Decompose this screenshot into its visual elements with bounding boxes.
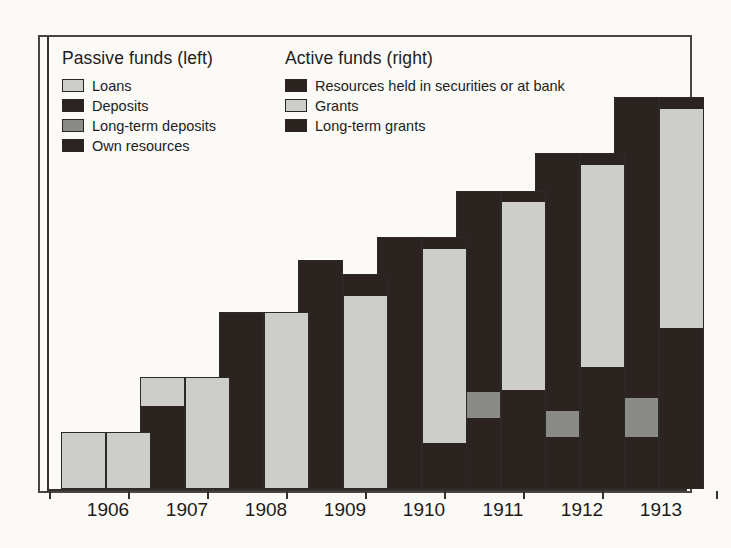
- bar-1906-left: [61, 432, 106, 489]
- segment-1908-right-grants: [264, 312, 309, 489]
- x-label-1908: 1908: [226, 499, 306, 521]
- x-label-1907: 1907: [147, 499, 227, 521]
- segment-1906-right-grants: [106, 432, 151, 489]
- bar-1908-right: [264, 312, 309, 489]
- segment-1910-right-long_term_grants: [422, 442, 467, 489]
- y-axis-spine: [47, 37, 49, 492]
- segment-1911-right-grants: [501, 201, 546, 389]
- segment-1913-right-grants: [659, 108, 704, 329]
- x-axis-baseline: [47, 489, 687, 491]
- segment-1907-right-grants: [185, 377, 230, 489]
- x-label-1906: 1906: [68, 499, 148, 521]
- segment-1909-right-securities_or_bank: [343, 274, 388, 296]
- tick-1911: [444, 491, 446, 499]
- segment-1910-right-grants: [422, 248, 467, 443]
- bar-1906-right: [106, 432, 151, 489]
- segment-1909-right-grants: [343, 295, 388, 489]
- tick-1910: [365, 491, 367, 499]
- tick-1906: [49, 491, 51, 499]
- bar-1912-right: [580, 153, 625, 489]
- x-label-1910: 1910: [384, 499, 464, 521]
- bar-1913-right: [659, 97, 704, 489]
- bar-1910-right: [422, 237, 467, 489]
- segment-1913-right-long_term_grants: [659, 327, 704, 489]
- segment-1911-right-securities_or_bank: [501, 191, 546, 203]
- segment-1911-right-long_term_grants: [501, 389, 546, 489]
- tick-1913: [602, 491, 604, 499]
- bar-1907-right: [185, 377, 230, 489]
- x-label-1912: 1912: [542, 499, 622, 521]
- segment-1906-left-loans: [61, 432, 106, 489]
- tick-end: [716, 491, 718, 499]
- bar-1909-right: [343, 274, 388, 489]
- segment-1907-left-loans: [140, 377, 185, 407]
- segment-1910-right-securities_or_bank: [422, 237, 467, 249]
- x-label-1909: 1909: [305, 499, 385, 521]
- segment-1912-right-grants: [580, 164, 625, 367]
- x-label-1911: 1911: [463, 499, 543, 521]
- segment-1913-right-securities_or_bank: [659, 97, 704, 109]
- segment-1912-right-securities_or_bank: [580, 153, 625, 165]
- plot-area: 19061907190819091910191119121913: [40, 37, 690, 491]
- segment-1912-right-long_term_grants: [580, 366, 625, 489]
- tick-1912: [523, 491, 525, 499]
- tick-1907: [128, 491, 130, 499]
- bar-1911-right: [501, 191, 546, 489]
- x-label-1913: 1913: [621, 499, 701, 521]
- chart-page: Passive funds (left) Loans Deposits Long…: [0, 0, 731, 548]
- tick-1908: [207, 491, 209, 499]
- tick-1909: [286, 491, 288, 499]
